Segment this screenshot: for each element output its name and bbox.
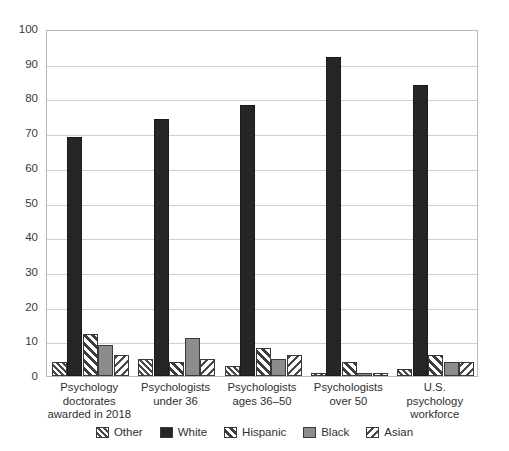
y-axis-tick-label: 40 [0,232,38,243]
legend-item-hispanic[interactable]: Hispanic [224,426,286,438]
bar-group [138,29,215,376]
y-axis: 0102030405060708090100 [0,0,44,451]
bar-black [357,373,372,376]
legend-item-label: Black [321,426,349,438]
hatch-forward-swatch [96,427,109,438]
bar-white [240,105,255,376]
y-axis-tick-label: 80 [0,93,38,104]
y-axis-tick-label: 0 [0,371,38,382]
bar-other [138,359,153,376]
legend-item-label: Other [114,426,143,438]
y-axis-tick-label: 10 [0,336,38,347]
y-axis-tick-label: 60 [0,163,38,174]
legend-item-label: White [178,426,207,438]
bar-hispanic [428,355,443,376]
bar-black [271,359,286,376]
plot-area [46,30,478,377]
bar-black [185,338,200,376]
bar-white [67,137,82,376]
x-axis-category-label: Psychologists ages 36–50 [219,381,305,408]
y-axis-tick-label: 100 [0,24,38,35]
bar-white [154,119,169,376]
y-axis-tick-label: 90 [0,59,38,70]
legend-item-black[interactable]: Black [303,426,349,438]
y-axis-tick-label: 70 [0,128,38,139]
bar-group [311,29,388,376]
bar-asian [200,359,215,376]
solid-gray-swatch [303,427,316,438]
bar-group [397,29,474,376]
bar-other [52,362,67,376]
legend-item-white[interactable]: White [160,426,207,438]
bar-group [225,29,302,376]
bar-asian [114,355,129,376]
chart-legend: OtherWhiteHispanicBlackAsian [0,426,509,438]
x-axis-category-label: U.S. psychology workforce [392,381,478,422]
x-axis-category-label: Psychologists under 36 [132,381,218,408]
legend-item-asian[interactable]: Asian [366,426,413,438]
bar-asian [373,373,388,376]
y-axis-tick-label: 20 [0,302,38,313]
x-axis-category-label: Psychologists over 50 [305,381,391,408]
bar-hispanic [169,362,184,376]
y-axis-tick-label: 50 [0,198,38,209]
x-axis-category-label: Psychology doctorates awarded in 2018 [46,381,132,422]
bar-white [413,85,428,376]
bar-asian [287,355,302,376]
bar-black [444,362,459,376]
bar-other [311,373,326,376]
bar-hispanic [256,348,271,376]
legend-item-other[interactable]: Other [96,426,143,438]
hatch-forward-wide-swatch [224,427,237,438]
bar-asian [459,362,474,376]
hatch-back-swatch [366,427,379,438]
bar-chart: 0102030405060708090100 Psychology doctor… [0,0,509,451]
bar-black [98,345,113,376]
bar-hispanic [83,334,98,376]
legend-item-label: Asian [384,426,413,438]
bar-other [225,366,240,376]
bar-white [326,57,341,376]
bar-group [52,29,129,376]
legend-item-label: Hispanic [242,426,286,438]
y-axis-tick-label: 30 [0,267,38,278]
bar-hispanic [342,362,357,376]
bar-other [397,369,412,376]
solid-dark-swatch [160,427,173,438]
